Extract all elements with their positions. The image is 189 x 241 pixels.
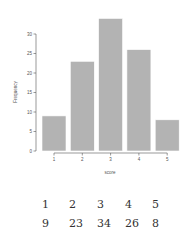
x-tick-labels: 12345: [53, 157, 169, 162]
table-cell: 3: [97, 198, 121, 211]
x-tick-label: 3: [109, 157, 112, 162]
data-table: 1 2 3 4 5 9 23 34 26 8: [0, 198, 189, 238]
table-cell: 5: [152, 198, 176, 211]
y-tick-label: 5: [29, 129, 32, 134]
bar-chart: 051015202530 12345 Frequency score: [0, 0, 189, 175]
y-axis-label: Frequency: [13, 81, 18, 103]
x-tick-label: 1: [53, 157, 56, 162]
y-tick-labels: 051015202530: [27, 32, 33, 154]
y-axis: [34, 34, 37, 151]
y-tick-label: 30: [27, 32, 33, 37]
x-tick-label: 4: [138, 157, 141, 162]
table-cell: 26: [125, 217, 149, 230]
y-tick-label: 25: [27, 51, 33, 56]
table-cell: 23: [69, 217, 93, 230]
x-tick-label: 5: [166, 157, 169, 162]
bar-2: [70, 61, 94, 151]
bar-4: [127, 50, 151, 151]
table-cell: 4: [125, 198, 149, 211]
x-axis-label: score: [104, 170, 116, 175]
table-cell: 9: [42, 217, 66, 230]
x-axis: [54, 153, 167, 156]
table-cell: 34: [97, 217, 121, 230]
x-tick-label: 2: [81, 157, 84, 162]
table-cell: 2: [69, 198, 93, 211]
bar-5: [155, 120, 179, 151]
table-cell: 1: [42, 198, 66, 211]
y-tick-label: 10: [27, 110, 33, 115]
bars: [42, 18, 179, 151]
bar-1: [42, 116, 66, 151]
table-cell: 8: [152, 217, 176, 230]
y-tick-label: 20: [27, 71, 33, 76]
y-tick-label: 15: [27, 90, 33, 95]
y-tick-label: 0: [29, 149, 32, 154]
bar-3: [99, 18, 123, 151]
